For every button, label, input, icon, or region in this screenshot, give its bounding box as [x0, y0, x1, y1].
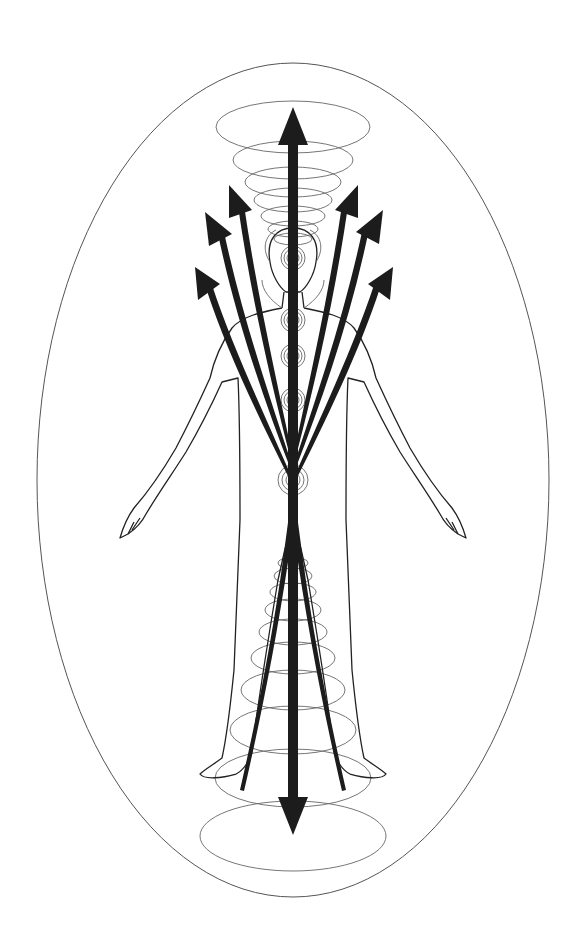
- energy-diagram: Human energy field with chakras and ener…: [0, 0, 584, 947]
- central-channel-arrow: [278, 107, 308, 835]
